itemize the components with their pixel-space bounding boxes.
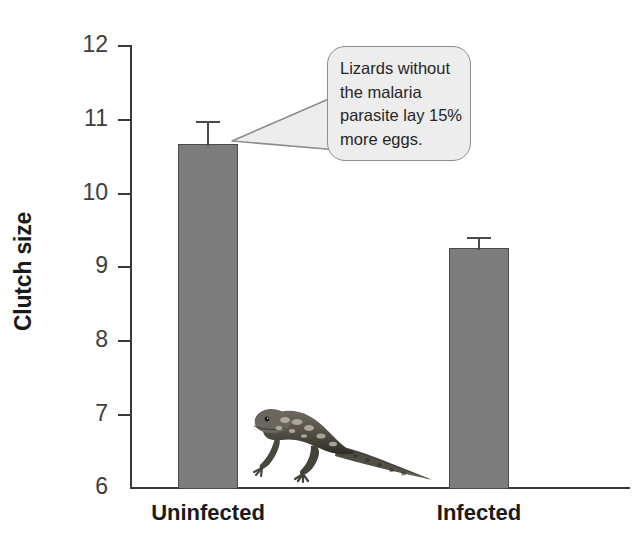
y-tick-12 [118,45,131,47]
y-tick-label-10: 10 [68,181,108,204]
bar-chart-figure: Clutch size 12 11 10 9 8 7 6 Uninfected … [0,0,639,544]
y-tick-11 [118,119,131,121]
x-label-infected: Infected [399,500,559,526]
error-bar-stem-uninfected [207,122,209,146]
bar-infected [449,248,509,489]
bar-uninfected [178,144,238,489]
lizard-illustration [245,398,435,488]
y-tick-label-9: 9 [68,254,108,277]
y-tick-label-7: 7 [68,402,108,425]
x-label-uninfected: Uninfected [128,500,288,526]
error-bar-cap-infected [467,237,491,239]
callout-line-2: the malaria [340,81,462,105]
error-bar-stem-infected [478,238,480,250]
y-tick-label-6: 6 [68,475,108,498]
y-tick-7 [118,414,131,416]
callout-pointer [230,95,340,155]
callout-box: Lizards without the malaria parasite lay… [327,46,471,161]
callout-text: Lizards without the malaria parasite lay… [340,57,462,151]
y-tick-label-12: 12 [68,33,108,56]
y-axis-title: Clutch size [10,187,37,357]
y-tick-10 [118,193,131,195]
callout-line-4: more eggs. [340,128,462,152]
callout-line-3: parasite lay 15% [340,104,462,128]
y-tick-label-11: 11 [68,107,108,130]
callout-line-1: Lizards without [340,57,462,81]
y-tick-label-8: 8 [68,328,108,351]
y-tick-8 [118,340,131,342]
y-tick-9 [118,266,131,268]
error-bar-cap-uninfected [196,121,220,123]
